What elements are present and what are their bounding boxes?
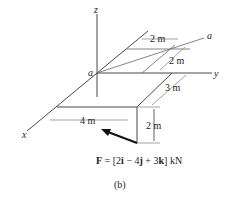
top-depth-label: 2 m: [169, 55, 185, 66]
x-axis-label: x: [21, 129, 27, 140]
top-width-label: 2 m: [150, 33, 166, 44]
height-label: 2 m: [146, 120, 162, 131]
3d-diagram: z y x a a 2 m 2 m 3 m 4 m 2 m F = [2i − …: [0, 0, 231, 204]
figure: z y x a a 2 m 2 m 3 m 4 m 2 m F = [2i − …: [0, 0, 231, 204]
z-axis-label: z: [93, 4, 98, 15]
origin-label: a: [88, 67, 93, 78]
line-a-label: a: [207, 30, 212, 41]
side-depth-label: 3 m: [165, 82, 181, 93]
y-axis-label: y: [213, 68, 219, 79]
force-arrow: [101, 129, 137, 143]
front-width-label: 4 m: [80, 115, 96, 126]
caption: (b): [114, 179, 126, 191]
force-equation: F = [2i − 4j + 3k] kN: [96, 155, 182, 166]
origin-diagonal-line: [97, 31, 148, 73]
